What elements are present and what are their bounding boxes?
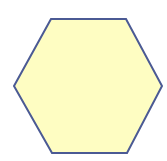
diagram-canvas: [0, 0, 167, 161]
hexagon-shape[interactable]: [14, 19, 162, 153]
